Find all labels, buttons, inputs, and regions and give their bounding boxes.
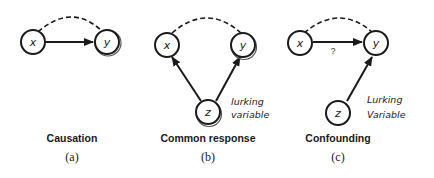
arrow-z-to-x — [172, 57, 201, 101]
node-x: x — [155, 33, 179, 57]
node-z: z — [326, 101, 350, 125]
diagram-canvas: x y Causation (a) x y z lurking variable — [0, 0, 434, 178]
node-y: y — [364, 31, 388, 55]
panel-confounding: ? x y z Lurking Variable Confounding (c) — [288, 18, 406, 164]
node-y: y — [95, 30, 121, 56]
node-x: x — [288, 31, 312, 55]
edge-label-question: ? — [330, 46, 335, 56]
node-z-label: z — [334, 107, 341, 120]
node-x-label: x — [29, 36, 37, 49]
panel-causation: x y Causation (a) — [21, 17, 121, 164]
dashed-association-arc — [304, 18, 373, 33]
node-z-label: z — [204, 106, 211, 119]
panel-common-response: x y z lurking variable Common response (… — [155, 18, 269, 164]
arrow-z-to-y — [216, 57, 240, 101]
annotation-lurking: lurking — [231, 96, 264, 107]
node-x-label: x — [296, 37, 304, 50]
node-y-label: y — [372, 37, 380, 50]
dashed-association-arc — [38, 17, 103, 32]
node-y: y — [231, 33, 257, 60]
node-z: z — [196, 100, 222, 127]
node-y-label: y — [103, 36, 111, 49]
sublabel-a: (a) — [65, 150, 78, 164]
sublabel-c: (c) — [331, 150, 344, 164]
caption-causation: Causation — [47, 132, 98, 144]
caption-common-response: Common response — [160, 132, 255, 144]
node-x: x — [21, 30, 45, 54]
sublabel-b: (b) — [201, 150, 215, 164]
dashed-association-arc — [172, 18, 241, 33]
caption-confounding: Confounding — [305, 132, 370, 144]
node-x-label: x — [163, 39, 171, 52]
annotation-variable: variable — [231, 109, 269, 120]
node-y-label: y — [239, 39, 247, 52]
annotation-lurking: Lurking — [367, 94, 402, 105]
annotation-variable: Variable — [367, 109, 406, 120]
